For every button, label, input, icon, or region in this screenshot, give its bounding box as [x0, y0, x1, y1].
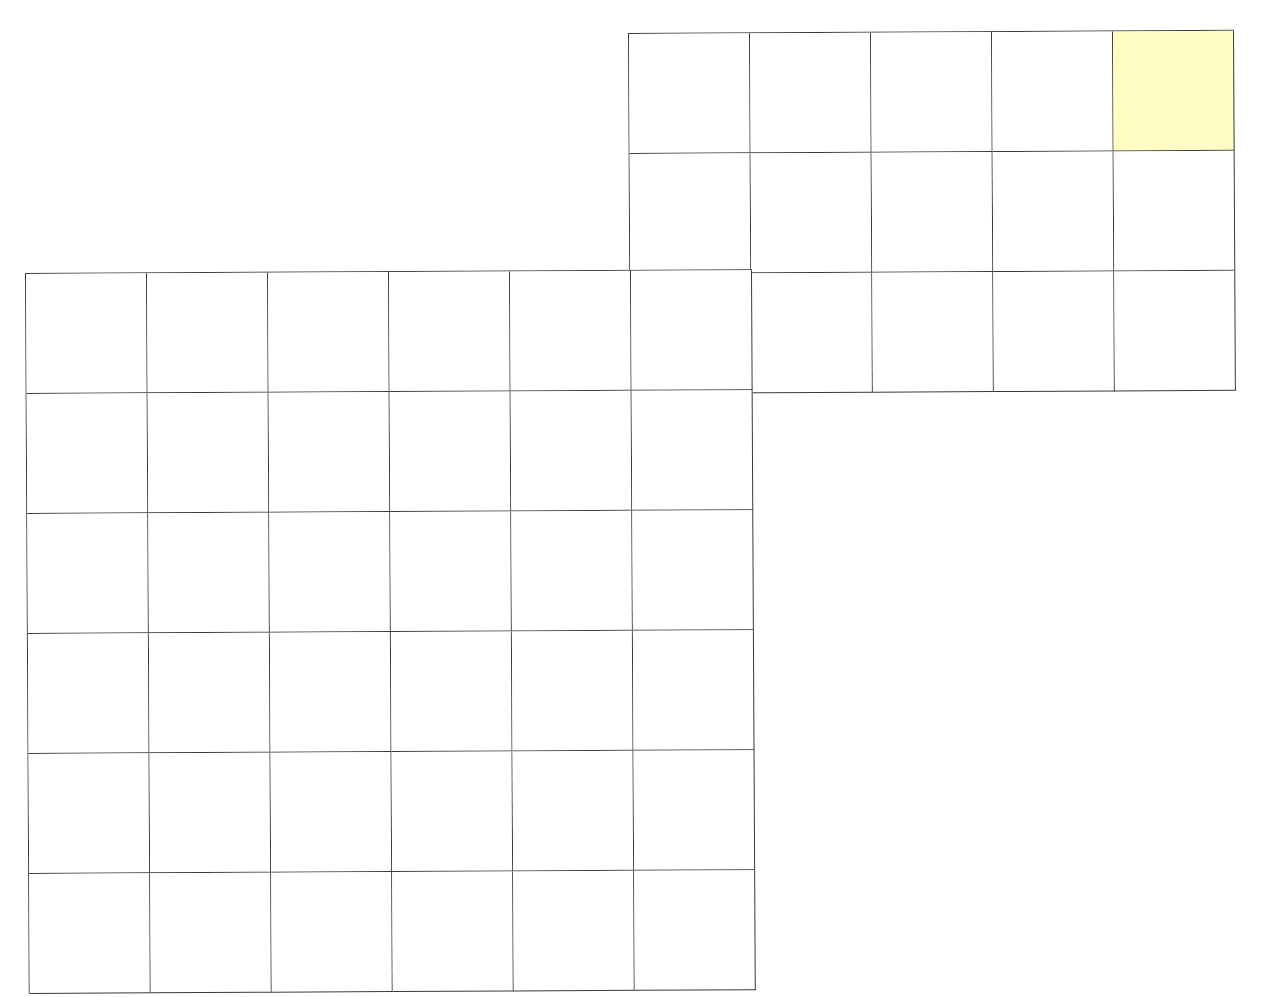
grid-cell: [268, 272, 390, 393]
grid-cell: [269, 512, 391, 633]
grid-cell: [513, 751, 635, 872]
grid-cell: [28, 633, 150, 754]
grid-cell: [27, 513, 149, 634]
grid-cell: [632, 510, 754, 631]
grid-cell: [26, 273, 148, 394]
grid-cell: [392, 751, 514, 872]
grid-cell: [630, 153, 752, 274]
grid-cell: [392, 871, 514, 992]
grid-cell: [993, 151, 1115, 272]
grid-cell: [390, 391, 512, 512]
grid-cell: [148, 393, 270, 514]
grid-cell: [634, 870, 756, 991]
grid-cell: [27, 393, 149, 514]
grid-cell: [629, 33, 751, 154]
grid-cell: [511, 511, 633, 632]
lower-left-grid: [25, 269, 756, 994]
grid-cell: [751, 273, 873, 394]
grid-cell: [872, 272, 994, 393]
grid-cell: [871, 32, 993, 153]
grid-cell: [632, 390, 754, 511]
grid-cell: [147, 273, 269, 394]
grid-cell: [1114, 151, 1236, 272]
grid-cell: [389, 271, 511, 392]
grid-cell: [633, 630, 755, 751]
grid-cell: [390, 511, 512, 632]
highlighted-grid-cell: [1113, 31, 1235, 152]
grid-cell: [150, 873, 272, 994]
grid-cell: [512, 631, 634, 752]
grid-cell: [631, 270, 753, 391]
grid-cell: [1114, 271, 1236, 392]
grid-cell: [271, 872, 393, 993]
grid-cell: [269, 392, 391, 513]
grid-cell: [751, 153, 873, 274]
grid-cell: [513, 871, 635, 992]
grid-cell: [634, 750, 756, 871]
grid-cell: [150, 753, 272, 874]
grid-cell: [993, 271, 1115, 392]
grid-cell: [148, 513, 270, 634]
grid-cell: [992, 31, 1114, 152]
grid-cell: [271, 752, 393, 873]
grid-cell: [29, 753, 151, 874]
grid-cell: [270, 632, 392, 753]
grid-cell: [29, 873, 151, 994]
grid-cell: [510, 271, 632, 392]
grid-cell: [750, 33, 872, 154]
grid-cell: [872, 152, 994, 273]
grid-cell: [149, 633, 271, 754]
grid-cell: [511, 391, 633, 512]
grid-cell: [391, 631, 513, 752]
